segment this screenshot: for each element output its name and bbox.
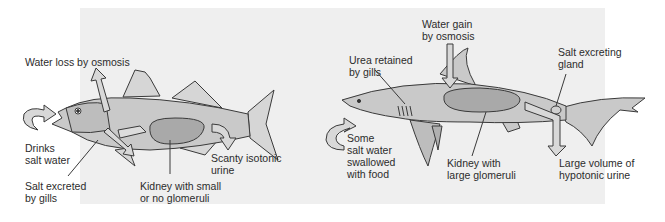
label-drinks-salt-water: Drinks salt water bbox=[25, 142, 70, 166]
label-salt-gland: Salt excreting gland bbox=[558, 46, 622, 70]
label-water-loss: Water loss by osmosis bbox=[25, 56, 130, 68]
label-urea-retained: Urea retained by gills bbox=[349, 54, 413, 78]
label-salt-excreted-gills: Salt excreted by gills bbox=[25, 180, 86, 204]
label-kidney-small-glomeruli: Kidney with small or no glomeruli bbox=[140, 180, 221, 204]
label-water-gain: Water gain by osmosis bbox=[422, 18, 475, 42]
label-salt-water-swallowed: Some salt water swallowed with food bbox=[347, 132, 395, 180]
diagram-illustration bbox=[0, 0, 665, 222]
label-kidney-large-glomeruli: Kidney with large glomeruli bbox=[447, 157, 516, 181]
label-scanty-urine: Scanty isotonic urine bbox=[211, 152, 282, 176]
label-large-hypotonic-urine: Large volume of hypotonic urine bbox=[559, 157, 634, 181]
